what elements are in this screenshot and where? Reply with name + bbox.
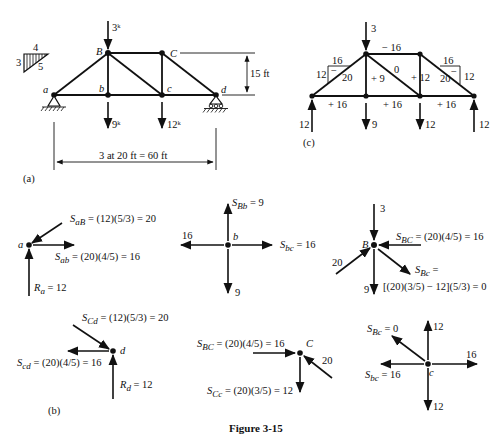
force-Cd: 20 bbox=[440, 73, 451, 84]
eq-S-Bc-label: SBc = bbox=[415, 264, 438, 278]
joint-c-fbd-label: c bbox=[429, 367, 434, 378]
arrow-S-aB bbox=[32, 223, 62, 243]
reaction-a-c-label: 12 bbox=[299, 119, 310, 130]
joint-C-fbd: C SBC = (20)(4/5) = 16 20 SCc = (20)(3/5… bbox=[197, 338, 333, 399]
force-Cd-sign: − bbox=[451, 66, 457, 77]
joint-B-left-force: 20 bbox=[332, 257, 343, 268]
force-aB-sign: − bbox=[331, 65, 337, 76]
force-bc: + 16 bbox=[383, 99, 402, 110]
eq-S-aB: SaB = (12)(5/3) = 20 bbox=[70, 213, 156, 227]
joint-b-down-force: 9 bbox=[235, 287, 240, 298]
span-dimension: 3 at 20 ft = 60 ft bbox=[54, 122, 216, 170]
joint-B-down-force: 9 bbox=[364, 284, 369, 295]
slope-vertical-label: 3 bbox=[16, 57, 21, 68]
load-b-label: 9ᵏ bbox=[112, 119, 121, 130]
slope-hypotenuse-label: 5 bbox=[38, 61, 43, 72]
joint-a-fbd-label: a bbox=[18, 239, 23, 250]
arrow-S-Cd bbox=[73, 325, 109, 349]
force-aB-vertical: 12 bbox=[316, 69, 327, 80]
pin-support-icon bbox=[41, 96, 66, 111]
load-B-c-label: 3 bbox=[371, 23, 376, 34]
eq-S-Cc: SCc = (20)(3/5) = 12 bbox=[207, 385, 293, 399]
joint-c-up-force: 12 bbox=[433, 321, 444, 332]
joint-d-label: d bbox=[221, 84, 227, 95]
span-label: 3 at 20 ft = 60 ft bbox=[99, 150, 167, 161]
member-Bc bbox=[108, 53, 162, 95]
joint-c-fbd: c SBc = 0 12 16 Sbc = 16 12 bbox=[365, 321, 477, 412]
joint-c-down-force: 12 bbox=[433, 401, 444, 412]
joint-b-fbd: b SBb = 9 16 Sbc = 16 9 bbox=[181, 197, 315, 298]
joint-a-label: a bbox=[43, 84, 48, 95]
arrow-S-Bc bbox=[378, 249, 410, 274]
eq-S-BC-B: SBC = (20)(4/5) = 16 bbox=[396, 231, 484, 245]
force-Bb: + 9 bbox=[371, 73, 385, 84]
load-c-c-label: 12 bbox=[425, 119, 436, 130]
joint-b-fbd-label: b bbox=[233, 231, 238, 242]
panel-b-label: (b) bbox=[48, 405, 61, 417]
joint-B-fbd: B 3 SBC = (20)(4/5) = 16 20 9 SBc = [(20… bbox=[332, 203, 486, 295]
load-c-label: 12ᵏ bbox=[167, 119, 182, 130]
joint-d-fbd: d SCd = (12)(5/3) = 20 Scd = (20)(4/5) =… bbox=[17, 312, 169, 417]
panel-c-member-forces: 3 − 16 16 12 − 20 + 9 0 + 12 16 12 − 20 … bbox=[299, 22, 490, 149]
eq-S-ab: Sab = (20)(4/5) = 16 bbox=[55, 251, 140, 265]
truss-members bbox=[54, 53, 216, 95]
joint-C-diag-force: 20 bbox=[322, 355, 333, 366]
panel-a-truss: 4 3 5 a b B C c d bbox=[16, 21, 270, 185]
force-BC: − 16 bbox=[382, 42, 401, 53]
joint-d-fbd-label: d bbox=[120, 345, 126, 356]
eq-S-Bb: SBb = 9 bbox=[232, 197, 264, 211]
eq-S-Cd: SCd = (12)(5/3) = 20 bbox=[82, 312, 169, 326]
force-ab: + 16 bbox=[328, 99, 347, 110]
joint-b-label: b bbox=[99, 83, 104, 94]
force-aB: 20 bbox=[342, 72, 353, 83]
force-Cd-horizontal: 16 bbox=[443, 55, 454, 66]
figure-caption: Figure 3-15 bbox=[229, 422, 283, 434]
eq-S-bc: Sbc = 16 bbox=[280, 239, 315, 253]
joint-a-fbd: a SaB = (12)(5/3) = 20 Sab = (20)(4/5) =… bbox=[18, 213, 156, 296]
slope-horizontal-label: 4 bbox=[33, 42, 39, 53]
force-Cc: + 12 bbox=[411, 72, 430, 83]
slope-triangle: 4 3 5 bbox=[16, 42, 48, 72]
joint-C-fbd-label: C bbox=[306, 338, 314, 349]
joint-c-right-force: 16 bbox=[466, 349, 477, 360]
eq-R-a: Ra = 12 bbox=[33, 282, 67, 296]
joint-B-top-force: 3 bbox=[380, 203, 385, 214]
force-cd: + 16 bbox=[437, 99, 456, 110]
roller-support-icon bbox=[203, 96, 228, 113]
eq-S-BC-C: SBC = (20)(4/5) = 16 bbox=[197, 338, 285, 352]
arrow-S-Bc-c bbox=[392, 336, 425, 361]
panel-c-label: (c) bbox=[303, 137, 315, 149]
eq-S-Bc-expr: [(20)(3/5) − 12](5/3) = 0 bbox=[383, 281, 486, 293]
height-label: 15 ft bbox=[250, 68, 270, 79]
reaction-d-c-label: 12 bbox=[479, 119, 490, 130]
eq-S-cd: Scd = (20)(4/5) = 16 bbox=[17, 357, 102, 371]
load-b-c-label: 9 bbox=[372, 119, 377, 130]
joint-b-left-force: 16 bbox=[182, 230, 193, 241]
joint-B-label: B bbox=[96, 46, 103, 57]
force-Bc: 0 bbox=[394, 64, 399, 75]
joint-C-label: C bbox=[170, 48, 178, 59]
eq-R-d: Rd = 12 bbox=[119, 379, 153, 393]
panel-a-label: (a) bbox=[23, 173, 35, 185]
eq-S-bc-c: Sbc = 16 bbox=[365, 369, 400, 383]
figure-3-15: 4 3 5 a b B C c d bbox=[0, 0, 501, 446]
joint-B-fbd-label: B bbox=[362, 239, 369, 250]
eq-S-Bc-c: SBc = 0 bbox=[367, 323, 398, 337]
joint-c-label: c bbox=[167, 83, 172, 94]
load-B-label: 3ᵏ bbox=[112, 22, 121, 33]
force-Cd-vertical: 12 bbox=[464, 71, 475, 82]
